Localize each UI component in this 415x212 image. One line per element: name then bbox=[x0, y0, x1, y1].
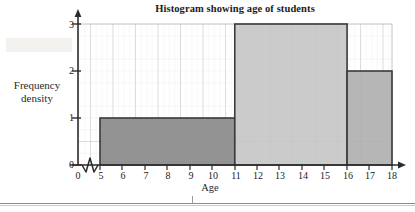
plot-area bbox=[0, 0, 415, 212]
bar-16-18 bbox=[347, 71, 392, 165]
histogram-figure: Histogram showing age of students Freque… bbox=[0, 0, 415, 212]
page-edge-tick bbox=[192, 196, 193, 204]
bar-11-16 bbox=[235, 24, 347, 165]
page-edge-rule-shadow bbox=[0, 205, 415, 206]
page-edge-rule bbox=[0, 203, 415, 204]
bar-5-11 bbox=[100, 118, 235, 165]
